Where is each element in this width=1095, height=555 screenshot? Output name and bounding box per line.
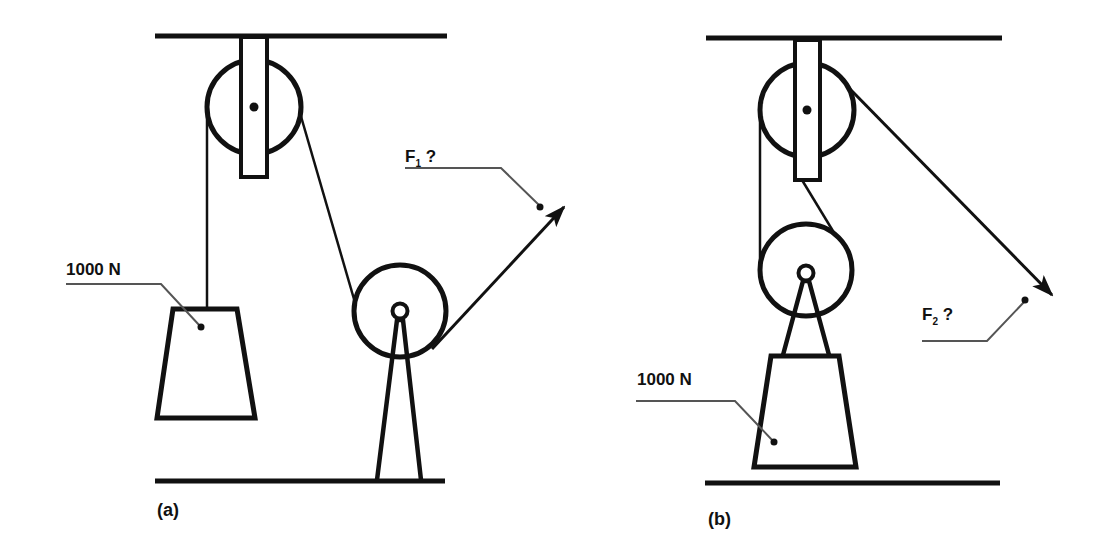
force-leader-a (405, 168, 540, 206)
weight-b (754, 356, 856, 467)
panel-b: F2 ? 1000 N (b) (636, 38, 1052, 529)
force-leader-dot-a (537, 204, 544, 211)
force-arrow-b (849, 88, 1052, 295)
force-leader-dot-b (1022, 297, 1029, 304)
load-leader-dot-a (198, 324, 205, 331)
hanging-weight-a (157, 309, 255, 418)
pulley-axle-b (803, 106, 812, 115)
force-label-a: F1 ? (405, 147, 436, 169)
movable-pulley-axle-b (799, 266, 814, 281)
rope-a-middle (300, 113, 356, 306)
load-leader-b (636, 401, 773, 441)
load-leader-dot-b (771, 439, 778, 446)
pulley-diagram: F1 ? 1000 N (a) F2 ? 1000 N (b) (0, 0, 1095, 555)
force-label-b: F2 ? (922, 305, 953, 327)
ground-pulley-axle-a (393, 304, 408, 319)
caption-a: (a) (157, 500, 179, 520)
load-label-b: 1000 N (637, 370, 692, 389)
pulley-stand-a (377, 320, 421, 480)
force-arrow-a (432, 207, 564, 349)
caption-b: (b) (708, 509, 731, 529)
panel-a: F1 ? 1000 N (a) (66, 36, 564, 520)
load-label-a: 1000 N (66, 260, 121, 279)
pulley-axle-a (250, 103, 259, 112)
